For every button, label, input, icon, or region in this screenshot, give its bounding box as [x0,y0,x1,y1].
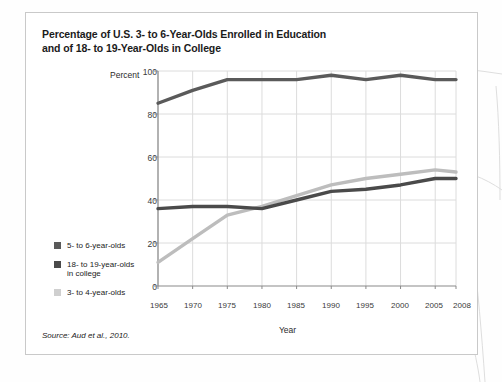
legend-item: 3- to 4-year-olds [54,288,134,298]
screenshot-root: Percentage of U.S. 3- to 6-Year-Olds Enr… [0,0,502,382]
source-note: Source: Aud et al., 2010. [42,331,130,340]
legend-item: 5- to 6-year-olds [54,241,134,251]
x-axis-label-text: Year [279,325,296,335]
axes [154,71,456,289]
legend-label: 5- to 6-year-olds [67,241,125,251]
gridlines [158,71,456,286]
legend-swatch-5-to-6-year-olds [54,242,61,249]
series-line [158,75,456,103]
legend-item: 18- to 19-year-olds in college [54,260,134,279]
legend-label: 3- to 4-year-olds [67,288,125,298]
legend-label: 18- to 19-year-olds in college [67,260,134,279]
legend-swatch-18-to-19-year-olds-in-college [54,261,61,268]
chart-legend: 5- to 6-year-olds 18- to 19-year-olds in… [54,241,134,306]
legend-swatch-3-to-4-year-olds [54,289,61,296]
chart-card: Percentage of U.S. 3- to 6-Year-Olds Enr… [25,12,478,355]
